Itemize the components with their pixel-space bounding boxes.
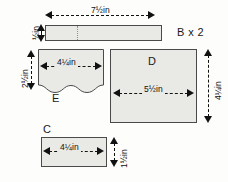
arrow-head-bottom — [204, 116, 212, 123]
arrow-head-bottom — [37, 35, 45, 42]
dimension-arrow-c-height — [110, 137, 119, 167]
dimension-line — [208, 55, 209, 117]
arrow-head-right — [97, 147, 104, 155]
arrow-head-right — [148, 11, 155, 19]
arrow-head-right — [95, 62, 102, 70]
dimension-line — [31, 56, 32, 84]
piece-b-fold-guide — [77, 26, 78, 40]
dimension-label-d-width: 5½in — [142, 85, 165, 94]
dimension-label-e-width: 4¼in — [55, 58, 78, 67]
dimension-label-c-width: 4¼in — [58, 143, 81, 152]
dimension-line — [114, 143, 115, 161]
dimension-arrow-d-height — [204, 49, 213, 123]
piece-c-label: C — [43, 124, 51, 135]
dimension-line — [51, 15, 149, 16]
dimension-label-b-width: 7½in — [89, 6, 112, 15]
piece-d-label: D — [148, 56, 156, 67]
piece-e-shape — [38, 49, 104, 94]
arrow-head-bottom — [27, 83, 35, 90]
piece-e-label: E — [52, 93, 60, 104]
piece-b-label: B x 2 — [177, 27, 204, 38]
dimension-label-c-height: 1½in — [120, 149, 129, 168]
arrow-head-right — [187, 89, 194, 97]
dimension-label-d-height: 4¼in — [214, 81, 223, 100]
piece-b-rectangle — [45, 25, 162, 41]
piece-e-outline — [38, 49, 104, 94]
dimension-arrow-e-height — [27, 50, 36, 90]
arrow-head-bottom — [110, 160, 118, 167]
cutting-layout-diagram: 7½in ½in B x 2 2½in 4¼in E D 5½in — [0, 0, 228, 182]
